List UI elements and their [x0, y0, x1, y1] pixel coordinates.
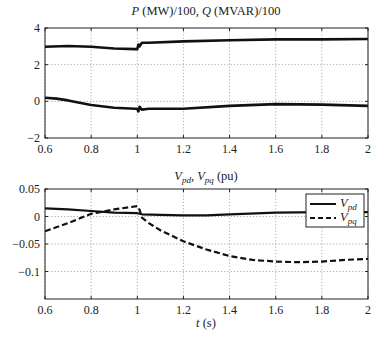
x-tick-label: 2: [365, 303, 371, 317]
chart-title: Vpd, Vpq (pu): [174, 169, 237, 185]
x-tick-label: 1.2: [176, 303, 191, 317]
chart-title: P (MW)/100, Q (MVAR)/100: [130, 4, 280, 18]
x-tick-label: 0.8: [84, 142, 99, 156]
vpd-vpq-chart: Vpd, Vpq (pu) 0.60.811.21.41.61.82 0.050…: [12, 169, 371, 330]
x-tick-label: 1.6: [268, 142, 283, 156]
x-tick-label: 1.4: [222, 142, 237, 156]
grid: [45, 28, 368, 138]
series-p-line: [45, 39, 368, 49]
series-q-line: [45, 98, 368, 112]
x-tick-label: 1.8: [314, 142, 329, 156]
x-tick-label: 1.2: [176, 142, 191, 156]
x-tick-label: 1: [134, 303, 140, 317]
x-tick-label: 0.6: [38, 303, 53, 317]
x-tick-label: 2: [365, 142, 371, 156]
y-tick-label: 0.05: [19, 182, 40, 196]
legend: Vpd Vpq: [306, 194, 364, 227]
pq-power-chart: P (MW)/100, Q (MVAR)/100 0.60.811.21.41.…: [27, 4, 371, 156]
y-tick-label: 0: [34, 94, 40, 108]
x-tick-label: 1.8: [314, 303, 329, 317]
x-tick-label: 0.8: [84, 303, 99, 317]
plot-lines: [45, 39, 368, 111]
x-tick-label: 1.6: [268, 303, 283, 317]
y-tick-label: 2: [34, 58, 40, 72]
axes-frame: [45, 28, 368, 138]
y-tick-label: −0.05: [12, 237, 40, 251]
x-tick-label: 1: [134, 142, 140, 156]
y-tick-label: 0: [34, 210, 40, 224]
x-tick-label: 1.4: [222, 303, 237, 317]
y-tick-label: 4: [34, 21, 40, 35]
figure: P (MW)/100, Q (MVAR)/100 0.60.811.21.41.…: [0, 0, 385, 344]
x-axis-label: t (s): [196, 316, 216, 330]
y-tick-label: −2: [27, 131, 40, 145]
y-tick-label: −0.1: [18, 265, 40, 279]
